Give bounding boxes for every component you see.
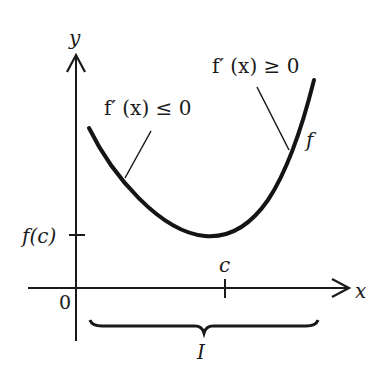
curve-label-f: f	[306, 130, 313, 150]
y-axis-label: y	[69, 28, 80, 48]
diagram-canvas	[0, 0, 386, 377]
leader-line-decreasing	[125, 131, 151, 178]
interval-brace	[90, 320, 318, 333]
interval-label: I	[197, 342, 205, 362]
annotation-decreasing: f′ (x) ≤ 0	[104, 98, 191, 118]
annotation-increasing: f′ (x) ≥ 0	[212, 56, 299, 76]
origin-label: 0	[59, 293, 71, 312]
convex-function-diagram: y x 0 f(c) c f f′ (x) ≤ 0 f′ (x) ≥ 0 I	[0, 0, 386, 377]
x-axis-label: x	[355, 281, 366, 301]
leader-line-increasing	[257, 87, 289, 150]
y-tick-label-fc: f(c)	[22, 226, 56, 246]
x-tick-label-c: c	[219, 255, 230, 275]
